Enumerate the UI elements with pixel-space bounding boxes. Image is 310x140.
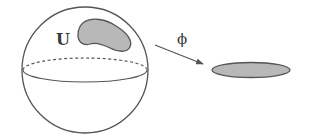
map-phi-label: ϕ (177, 30, 187, 48)
equator-front-solid (23, 70, 147, 82)
region-u-label: U (56, 30, 70, 49)
target-flat-region (212, 63, 290, 78)
equator-back-dashed (23, 58, 147, 70)
diagram-canvas: U ϕ (0, 0, 310, 140)
region-u-shape (78, 19, 131, 51)
